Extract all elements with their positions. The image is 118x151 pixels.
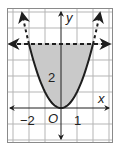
x-tick-label: 1 [74, 113, 81, 128]
y-tick-label: 2 [48, 70, 55, 85]
x-axis-label: x [97, 91, 105, 106]
x-tick-label: −2 [20, 113, 35, 128]
origin-label: O [48, 111, 58, 126]
graph: y x O −212 [0, 0, 118, 151]
